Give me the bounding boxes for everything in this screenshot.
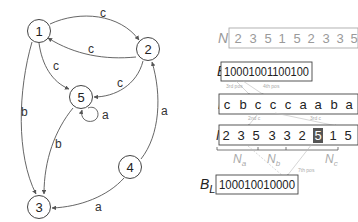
node-5: 5: [70, 86, 93, 109]
segment-labels: Na Nb Nc: [233, 152, 338, 168]
fm-index-diagram: c c c c a b b a a 1 2: [0, 0, 358, 222]
l-row: L c b c c c a a b a: [218, 94, 358, 114]
n-original-row: N 2 3 5 1 5 2 3 3 5: [218, 28, 358, 48]
edge-5-3: [44, 108, 73, 194]
bl-row: BL 100010010000: [200, 175, 298, 195]
svg-text:2: 2: [307, 31, 314, 46]
n-original-label: N: [218, 30, 229, 46]
svg-text:b: b: [239, 97, 246, 112]
edge-label-4-3: a: [95, 200, 102, 214]
edge-label-1-5: c: [53, 59, 59, 73]
svg-text:5: 5: [252, 128, 259, 143]
svg-text:5: 5: [350, 31, 357, 46]
edge-label-2-5: c: [117, 76, 123, 90]
svg-text:2: 2: [298, 128, 305, 143]
b-row: B 10001001100100: [217, 62, 312, 81]
bl-bits: 100010010000: [219, 177, 295, 192]
svg-text:a: a: [314, 97, 322, 112]
node-2: 2: [137, 38, 160, 61]
svg-text:a: a: [345, 97, 353, 112]
svg-text:1: 1: [278, 31, 285, 46]
svg-text:5: 5: [77, 90, 84, 105]
edge-label-5-5: a: [102, 108, 109, 122]
svg-text:5: 5: [264, 31, 271, 46]
svg-text:3: 3: [268, 128, 275, 143]
svg-text:3: 3: [322, 31, 329, 46]
annot-3rd-pos: 3rd pos: [226, 83, 243, 89]
svg-text:c: c: [285, 97, 292, 112]
svg-text:1: 1: [35, 24, 42, 39]
svg-text:3: 3: [249, 31, 256, 46]
edge-label-5-3: b: [55, 137, 62, 151]
edge-4-2: [141, 62, 158, 159]
annot-2nd-c: 2nd c: [248, 115, 261, 121]
b-bits: 10001001100100: [224, 64, 309, 79]
svg-text:1: 1: [329, 128, 336, 143]
segment-label-na: Na: [233, 152, 247, 168]
edge-label-1-2: c: [100, 6, 106, 20]
annot-4th-pos: 4th pos: [263, 83, 280, 89]
edge-label-4-2: a: [161, 104, 168, 118]
svg-text:c: c: [270, 97, 277, 112]
svg-text:3: 3: [237, 128, 244, 143]
edge-4-3: [52, 178, 124, 208]
segment-brackets: [217, 147, 338, 150]
svg-text:c: c: [224, 97, 231, 112]
svg-text:2: 2: [144, 42, 151, 57]
node-3: 3: [28, 196, 51, 219]
svg-text:2: 2: [222, 128, 229, 143]
svg-text:3: 3: [336, 31, 343, 46]
svg-text:c: c: [255, 97, 262, 112]
svg-text:3: 3: [283, 128, 290, 143]
annot-3rd-c: 3rd c: [310, 115, 322, 121]
b-to-l-pointers: 3rd pos 4th pos: [226, 81, 280, 95]
edge-label-2-1: c: [88, 42, 94, 56]
edge-label-1-3: b: [21, 105, 28, 119]
edge-1-2: [50, 16, 139, 40]
node-1: 1: [28, 20, 51, 43]
bl-label: BL: [200, 176, 215, 195]
segment-label-nb: Nb: [267, 152, 281, 168]
svg-text:b: b: [330, 97, 337, 112]
node-4: 4: [119, 156, 142, 179]
svg-text:5: 5: [344, 128, 351, 143]
n-row: N 2 3 5 3 3 2 5 1 5: [216, 125, 358, 145]
annot-7th-pos: 7th pos: [298, 167, 315, 173]
svg-text:5: 5: [293, 31, 300, 46]
svg-text:3: 3: [35, 200, 42, 215]
svg-text:2: 2: [234, 31, 241, 46]
segment-label-nc: Nc: [325, 152, 338, 168]
svg-text:5: 5: [314, 128, 321, 143]
svg-text:a: a: [299, 97, 307, 112]
svg-text:4: 4: [126, 160, 133, 175]
l-to-n-pointers: 2nd c 3rd c: [248, 113, 337, 126]
edge-5-5: [82, 107, 98, 121]
